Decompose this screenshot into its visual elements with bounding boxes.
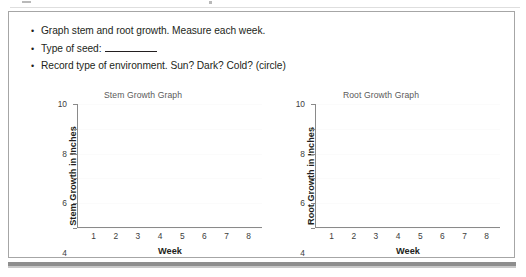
y-tick-mark: 10	[311, 104, 315, 105]
x-tick-label: 1	[91, 231, 96, 241]
y-gridline	[78, 104, 262, 105]
x-tick-label: 7	[224, 231, 229, 241]
y-tick-label: 4	[300, 248, 305, 258]
y-gridline	[316, 228, 500, 229]
x-axis-title: Week	[315, 246, 501, 256]
x-tick-label: 7	[462, 231, 467, 241]
y-tick-label: 10	[58, 99, 67, 109]
page-divider-shadow	[8, 266, 516, 268]
x-tick-label: 1	[329, 231, 334, 241]
y-tick-label: 8	[300, 149, 305, 159]
scan-artifact-strip	[0, 0, 526, 10]
y-gridline	[78, 203, 262, 204]
stem-growth-graph: Stem Growth Graph Stem Growth in Inches …	[23, 90, 263, 260]
list-item: • Record type of environment. Sun? Dark?…	[31, 59, 501, 72]
plot-area: Root Growth in Inches 0246810 12345678 W…	[315, 104, 501, 232]
seed-type-blank-field[interactable]	[105, 51, 157, 52]
x-tick-label: 6	[202, 231, 207, 241]
root-growth-graph: Root Growth Graph Root Growth in Inches …	[261, 90, 501, 260]
x-tick-label: 2	[351, 231, 356, 241]
y-tick-mark: 0	[73, 228, 77, 229]
instruction-list: • Graph stem and root growth. Measure ea…	[31, 24, 501, 77]
list-item: • Graph stem and root growth. Measure ea…	[31, 24, 501, 37]
y-tick-mark: 8	[311, 129, 315, 130]
x-tick-label: 5	[180, 231, 185, 241]
x-tick-label: 3	[374, 231, 379, 241]
instruction-text-graph-growth: Graph stem and root growth. Measure each…	[41, 24, 265, 37]
y-gridline	[316, 154, 500, 155]
y-tick-mark: 2	[73, 203, 77, 204]
y-gridline	[78, 129, 262, 130]
y-tick-mark: 2	[311, 203, 315, 204]
y-gridline	[78, 228, 262, 229]
y-axis-line	[315, 104, 316, 228]
bullet-icon: •	[31, 27, 41, 36]
y-tick-label: 6	[62, 198, 67, 208]
bullet-icon: •	[31, 45, 41, 54]
y-tick-label: 6	[300, 198, 305, 208]
y-gridline	[78, 154, 262, 155]
x-tick-label: 2	[113, 231, 118, 241]
y-tick-mark: 4	[311, 178, 315, 179]
scan-mark-left	[22, 1, 31, 3]
y-tick-mark: 6	[73, 154, 77, 155]
x-tick-label: 5	[418, 231, 423, 241]
bullet-icon: •	[31, 62, 41, 71]
y-tick-label: 4	[62, 248, 67, 258]
instruction-text-type-of-seed: Type of seed:	[41, 42, 102, 55]
scan-rule-line	[10, 7, 520, 8]
scan-mark-right	[209, 1, 212, 4]
y-gridline	[316, 178, 500, 179]
y-tick-label: 10	[296, 99, 305, 109]
y-axis-line	[77, 104, 78, 228]
x-tick-label: 4	[158, 231, 163, 241]
x-tick-label: 3	[136, 231, 141, 241]
y-gridline	[316, 129, 500, 130]
y-gridline	[316, 203, 500, 204]
x-tick-label: 4	[396, 231, 401, 241]
y-gridline	[78, 178, 262, 179]
x-axis-title: Week	[77, 246, 263, 256]
y-tick-mark: 8	[73, 129, 77, 130]
x-tick-label: 6	[440, 231, 445, 241]
plot-area: Stem Growth in Inches 0246810 12345678 W…	[77, 104, 263, 232]
list-item: • Type of seed:	[31, 42, 501, 55]
instruction-text-environment: Record type of environment. Sun? Dark? C…	[41, 59, 286, 72]
x-tick-label: 8	[484, 231, 489, 241]
y-tick-mark: 6	[311, 154, 315, 155]
worksheet-panel: • Graph stem and root growth. Measure ea…	[8, 11, 515, 258]
y-tick-mark: 10	[73, 104, 77, 105]
y-tick-mark: 4	[73, 178, 77, 179]
y-gridline	[316, 104, 500, 105]
y-tick-mark: 0	[311, 228, 315, 229]
y-tick-label: 8	[62, 149, 67, 159]
x-tick-label: 8	[246, 231, 251, 241]
